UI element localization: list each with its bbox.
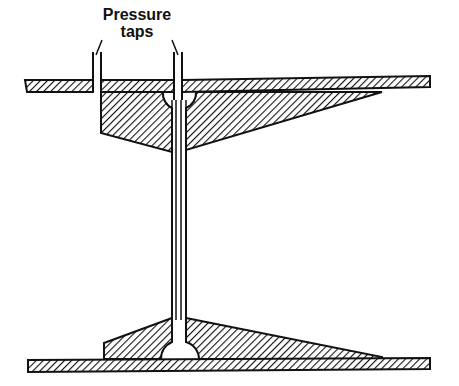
label-leader-lines	[96, 40, 178, 55]
pipe-wall-bottom	[28, 358, 430, 372]
upper-nozzle	[101, 92, 382, 152]
pressure-tap-right	[174, 52, 182, 100]
nozzle-cross-section-diagram	[0, 0, 459, 386]
label-line-1: Pressure	[94, 6, 180, 23]
pressure-tap-left	[93, 52, 101, 133]
pipe-wall-top	[25, 76, 430, 92]
lower-nozzle	[104, 318, 382, 359]
pressure-taps-label: Pressure taps	[94, 6, 180, 40]
label-line-2: taps	[94, 23, 180, 40]
center-tube	[172, 100, 186, 320]
